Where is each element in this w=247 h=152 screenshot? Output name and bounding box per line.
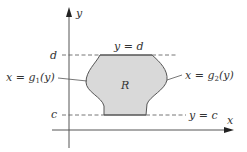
right-curve-label-suffix: (y) [219, 69, 234, 82]
left-curve-leader-line [58, 78, 87, 81]
x-axis-label: x [227, 114, 234, 127]
x-axis-arrow-icon [224, 127, 234, 133]
region-label: R [120, 79, 129, 92]
lower-bound-tick-label: c [51, 108, 57, 121]
y-axis-label: y [75, 7, 83, 20]
right-curve-label: x = g2(y) [185, 69, 234, 83]
upper-bound-line-label: y = d [113, 40, 143, 53]
right-curve-leader-line [167, 75, 182, 80]
y-axis-arrow-icon [66, 7, 72, 17]
right-curve-label-prefix: x = g [185, 69, 214, 82]
left-curve-label: x = g1(y) [6, 71, 55, 85]
region-diagram: y x d c y = d y = c R x = g1(y) x = g2(y… [0, 0, 247, 152]
left-curve-label-suffix: (y) [40, 71, 55, 84]
upper-bound-tick-label: d [50, 49, 57, 62]
left-curve-label-prefix: x = g [6, 71, 35, 84]
lower-bound-line-label: y = c [188, 109, 218, 122]
